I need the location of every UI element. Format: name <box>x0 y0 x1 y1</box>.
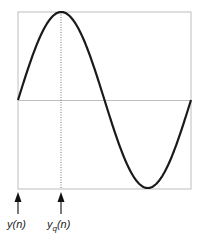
arrow-y-n <box>15 192 22 214</box>
label-y-n: y(n) <box>7 218 26 230</box>
arrow-yq-n <box>58 192 65 214</box>
sine-diagram <box>0 0 200 239</box>
label-yq-n: yq(n) <box>47 218 70 233</box>
